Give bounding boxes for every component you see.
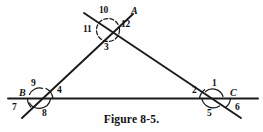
angle-label-7: 7 bbox=[12, 103, 17, 113]
angle-label-12: 12 bbox=[121, 20, 130, 30]
angle-label-6: 6 bbox=[235, 103, 240, 113]
vertex-label-a: A bbox=[131, 6, 137, 16]
vertex-label-b: B bbox=[19, 88, 25, 98]
angle-arc-9 bbox=[30, 88, 43, 95]
angle-label-3: 3 bbox=[104, 43, 109, 53]
figure-caption: Figure 8-5. bbox=[0, 113, 263, 125]
line-through-a-and-b bbox=[22, 14, 133, 118]
angle-arc-6 bbox=[226, 99, 231, 108]
angle-label-4: 4 bbox=[57, 86, 62, 96]
angle-label-10: 10 bbox=[99, 6, 108, 16]
line-through-a-and-c bbox=[84, 13, 241, 118]
angle-label-9: 9 bbox=[31, 79, 36, 89]
vertex-label-c: C bbox=[230, 88, 236, 98]
angle-label-11: 11 bbox=[83, 25, 92, 35]
angle-label-2: 2 bbox=[192, 86, 197, 96]
angle-label-1: 1 bbox=[212, 79, 217, 89]
angle-arc-5 bbox=[202, 99, 220, 108]
figure-container: A B C 10 12 11 3 9 4 7 8 1 2 5 6 Figure … bbox=[0, 0, 263, 132]
